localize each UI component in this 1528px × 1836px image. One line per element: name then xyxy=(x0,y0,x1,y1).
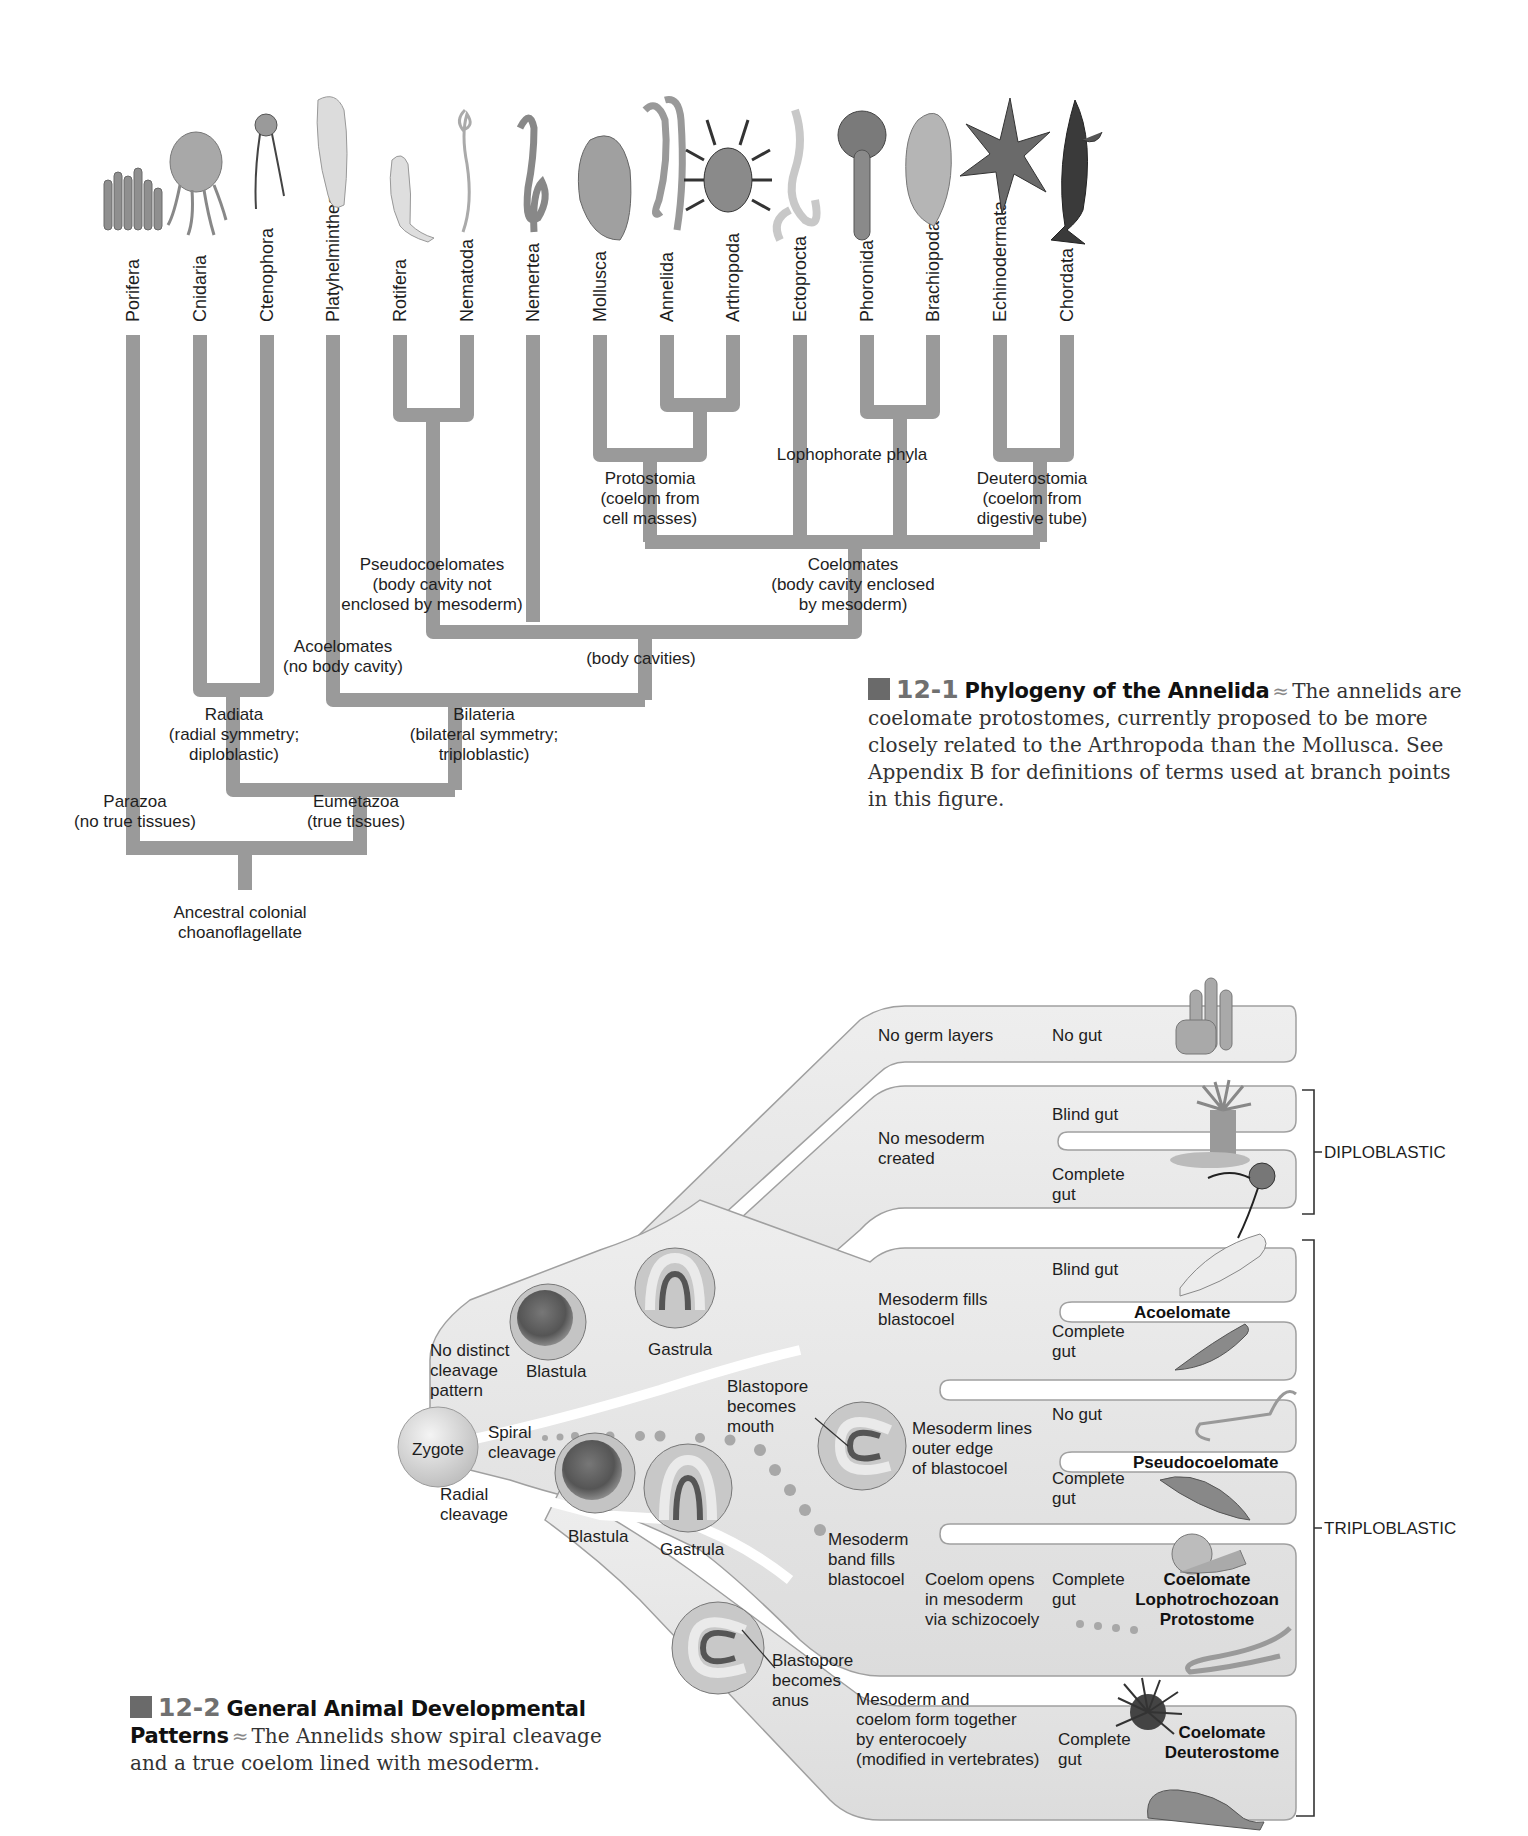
label-blind-gut-1: Blind gut xyxy=(1052,1105,1118,1124)
svg-text:Coelom opens: Coelom opens xyxy=(925,1570,1035,1589)
bracket-diploblastic xyxy=(1302,1090,1322,1214)
svg-text:blastocoel: blastocoel xyxy=(828,1570,905,1589)
svg-text:No mesoderm: No mesoderm xyxy=(878,1129,985,1148)
label-no-gut-2: No gut xyxy=(1052,1405,1102,1424)
label-triploblastic: TRIPLOBLASTIC xyxy=(1324,1519,1456,1538)
label-no-gut-1: No gut xyxy=(1052,1026,1102,1045)
svg-text:cleavage: cleavage xyxy=(488,1443,556,1462)
svg-text:Blastopore: Blastopore xyxy=(772,1651,853,1670)
label-coelom-opens: Coelom opens in mesoderm via schizocoely xyxy=(925,1570,1040,1629)
svg-text:band fills: band fills xyxy=(828,1550,895,1569)
caption-title-line1: General Animal Developmental xyxy=(227,1697,586,1721)
label-complete-gut-4b: gut xyxy=(1052,1590,1076,1609)
label-coelomate-deuterostome: Coelomate Deuterostome xyxy=(1165,1723,1279,1762)
svg-text:Mesoderm: Mesoderm xyxy=(828,1530,908,1549)
label-diploblastic: DIPLOBLASTIC xyxy=(1324,1143,1446,1162)
svg-text:Coelomate: Coelomate xyxy=(1164,1570,1251,1589)
svg-text:becomes: becomes xyxy=(772,1671,841,1690)
svg-text:in mesoderm: in mesoderm xyxy=(925,1590,1023,1609)
label-complete-gut-5a: Complete xyxy=(1058,1730,1131,1749)
label-blastula-bottom: Blastula xyxy=(568,1527,629,1546)
label-pseudocoelomate: Pseudocoelomate xyxy=(1133,1453,1279,1472)
svg-text:mouth: mouth xyxy=(727,1417,774,1436)
svg-text:Blastopore: Blastopore xyxy=(727,1377,808,1396)
svg-text:coelom form together: coelom form together xyxy=(856,1710,1017,1729)
label-blastula-top: Blastula xyxy=(526,1362,587,1381)
label-blind-gut-2: Blind gut xyxy=(1052,1260,1118,1279)
label-complete-gut-1b: gut xyxy=(1052,1185,1076,1204)
developmental-diagram: Zygote xyxy=(0,0,1528,1836)
label-complete-gut-2b: gut xyxy=(1052,1342,1076,1361)
svg-text:pattern: pattern xyxy=(430,1381,483,1400)
svg-text:blastocoel: blastocoel xyxy=(878,1310,955,1329)
svg-text:Spiral: Spiral xyxy=(488,1423,531,1442)
caption-number: 12-2 xyxy=(158,1693,221,1722)
zygote-label: Zygote xyxy=(412,1440,464,1459)
label-complete-gut-4a: Complete xyxy=(1052,1570,1125,1589)
svg-text:Deuterostome: Deuterostome xyxy=(1165,1743,1279,1762)
svg-text:created: created xyxy=(878,1149,935,1168)
label-no-germ-layers: No germ layers xyxy=(878,1026,993,1045)
caption-square-icon xyxy=(130,1696,152,1718)
blastula-top-icon xyxy=(510,1284,586,1360)
svg-text:of blastocoel: of blastocoel xyxy=(912,1459,1007,1478)
snail-icon xyxy=(1172,1534,1246,1574)
svg-text:Lophotrochozoan: Lophotrochozoan xyxy=(1135,1590,1279,1609)
svg-text:Protostome: Protostome xyxy=(1160,1610,1254,1629)
label-complete-gut-2a: Complete xyxy=(1052,1322,1125,1341)
gastrula-bottom-icon xyxy=(644,1444,732,1532)
gastrula-top-icon xyxy=(635,1248,715,1328)
svg-text:Radial: Radial xyxy=(440,1485,488,1504)
svg-text:cleavage: cleavage xyxy=(430,1361,498,1380)
label-complete-gut-3b: gut xyxy=(1052,1489,1076,1508)
textbook-page: Porifera Cnidaria Ctenophora Platyhelmin… xyxy=(0,0,1528,1836)
svg-text:becomes: becomes xyxy=(727,1397,796,1416)
blastopore-mouth-embryo-icon xyxy=(818,1402,906,1490)
label-acoelomate: Acoelomate xyxy=(1134,1303,1230,1322)
svg-text:Coelomate: Coelomate xyxy=(1179,1723,1266,1742)
svg-text:Mesoderm lines: Mesoderm lines xyxy=(912,1419,1032,1438)
label-gastrula-bottom: Gastrula xyxy=(660,1540,725,1559)
svg-text:outer edge: outer edge xyxy=(912,1439,993,1458)
svg-text:by enterocoely: by enterocoely xyxy=(856,1730,967,1749)
label-complete-gut-5b: gut xyxy=(1058,1750,1082,1769)
svg-text:Mesoderm fills: Mesoderm fills xyxy=(878,1290,988,1309)
caption-text-line1: The Annelids show spiral cleavage xyxy=(252,1724,602,1748)
label-complete-gut-1a: Complete xyxy=(1052,1165,1125,1184)
blastula-bottom-icon xyxy=(555,1433,635,1513)
caption-title-line2: Patterns xyxy=(130,1724,229,1748)
label-gastrula-top: Gastrula xyxy=(648,1340,713,1359)
svg-text:(modified in vertebrates): (modified in vertebrates) xyxy=(856,1750,1039,1769)
svg-text:via schizocoely: via schizocoely xyxy=(925,1610,1040,1629)
bracket-triploblastic xyxy=(1296,1240,1322,1816)
svg-text:Mesoderm and: Mesoderm and xyxy=(856,1690,969,1709)
blastopore-anus-embryo-icon xyxy=(672,1602,764,1694)
svg-text:No distinct: No distinct xyxy=(430,1341,510,1360)
tilde-icon: ≈ xyxy=(232,1724,249,1748)
svg-text:anus: anus xyxy=(772,1691,809,1710)
label-complete-gut-3a: Complete xyxy=(1052,1469,1125,1488)
caption-text-line2: and a true coelom lined with mesoderm. xyxy=(130,1751,540,1775)
caption-12-2: 12-2General Animal Developmental Pattern… xyxy=(130,1694,650,1777)
svg-text:cleavage: cleavage xyxy=(440,1505,508,1524)
